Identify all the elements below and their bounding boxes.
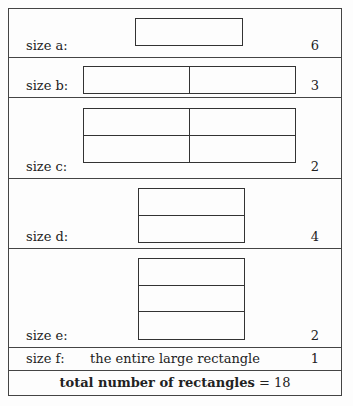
count-value: 1: [311, 351, 319, 366]
size-label: size a:: [26, 38, 68, 53]
rectangle-figure-d: [138, 188, 245, 243]
count-value: 2: [311, 159, 319, 174]
total-label: total number of rectangles: [59, 375, 254, 390]
size-label: size b:: [26, 78, 68, 93]
row-total: total number of rectangles = 18: [9, 371, 341, 395]
figure-cell: [139, 216, 244, 243]
row-size-b: size b: 3: [9, 58, 341, 98]
count-value: 4: [311, 229, 319, 244]
figure-cell: [84, 136, 190, 163]
count-value: 3: [311, 78, 319, 93]
size-label: size c:: [26, 159, 67, 174]
count-value: 6: [311, 38, 319, 53]
row-size-a: size a: 6: [9, 9, 341, 58]
total-operator: =: [259, 375, 270, 390]
figure-cell: [84, 67, 190, 93]
rectangle-figure-e: [138, 258, 245, 340]
figure-cell: [190, 67, 296, 93]
rectangle-count-table: size a: 6 size b: 3 size c: 2 size d: 4: [8, 8, 342, 396]
total-line: total number of rectangles = 18: [9, 375, 341, 390]
rectangle-figure-b: [83, 66, 296, 94]
figure-cell: [190, 109, 296, 136]
size-label: size d:: [26, 229, 68, 244]
count-value: 2: [311, 328, 319, 343]
size-description: the entire large rectangle: [9, 351, 341, 366]
row-size-e: size e: 2: [9, 249, 341, 348]
figure-cell: [139, 312, 244, 339]
total-value: 18: [274, 375, 291, 390]
row-size-c: size c: 2: [9, 98, 341, 179]
size-label: size e:: [26, 328, 68, 343]
figure-cell: [139, 286, 244, 313]
row-size-f: size f: the entire large rectangle 1: [9, 348, 341, 371]
figure-cell: [139, 189, 244, 216]
figure-cell: [84, 109, 190, 136]
row-size-d: size d: 4: [9, 179, 341, 249]
rectangle-figure-c: [83, 108, 296, 163]
rectangle-figure-a: [135, 18, 243, 46]
figure-cell: [190, 136, 296, 163]
figure-cell: [139, 259, 244, 286]
